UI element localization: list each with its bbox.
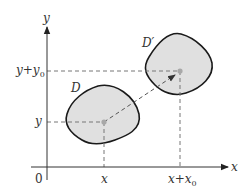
region-d-label: D <box>70 81 81 95</box>
y-axis-label: y <box>42 11 50 25</box>
translation-diagram: y x 0 x x+x0 y y+y0 D D′ <box>0 0 251 195</box>
x-tick-x: x <box>101 172 108 186</box>
y-tick-y: y <box>34 114 42 128</box>
y-tick-y-plus-y0: y+y0 <box>15 63 45 79</box>
region-d-prime-label: D′ <box>141 36 155 50</box>
x-axis-label: x <box>231 160 238 174</box>
x-tick-x-plus-x0: x+x0 <box>168 172 197 188</box>
point-translated <box>177 68 182 73</box>
region-d-prime <box>145 34 212 95</box>
origin-label: 0 <box>35 172 43 186</box>
point-xy <box>101 119 106 124</box>
